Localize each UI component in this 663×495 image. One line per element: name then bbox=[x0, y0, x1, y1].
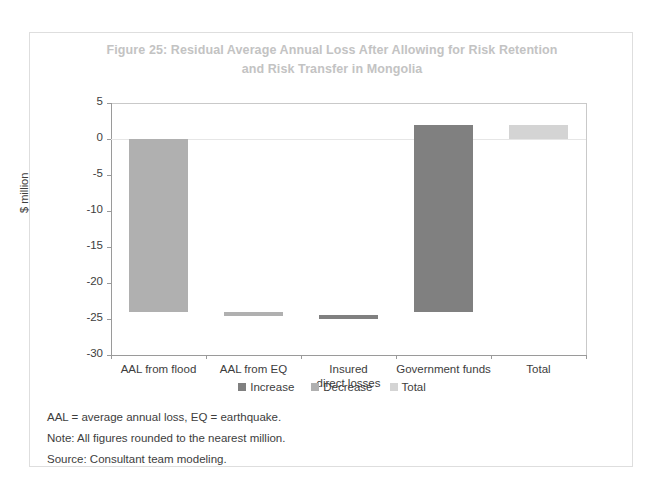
y-axis-title: $ million bbox=[18, 173, 30, 213]
x-tick-label-line: AAL from flood bbox=[111, 363, 206, 377]
y-tick-label: -30 bbox=[86, 347, 103, 359]
legend-item[interactable]: Decrease bbox=[311, 381, 372, 393]
y-tick: -10 bbox=[63, 211, 111, 212]
x-tick-mark bbox=[396, 355, 397, 359]
chart-plot: $ million 50-5-10-15-20-25-30 AAL from f… bbox=[30, 95, 634, 385]
plot-right-border bbox=[586, 103, 587, 356]
chart-bar bbox=[414, 125, 473, 312]
legend-item[interactable]: Increase bbox=[238, 381, 294, 393]
y-axis-ticks: 50-5-10-15-20-25-30 bbox=[63, 103, 111, 355]
figure-frame: Figure 25: Residual Average Annual Loss … bbox=[29, 32, 633, 467]
legend-label: Increase bbox=[250, 381, 294, 393]
note-rounding: Note: All figures rounded to the nearest… bbox=[47, 428, 607, 449]
legend-label: Total bbox=[402, 381, 426, 393]
y-tick: -5 bbox=[63, 175, 111, 176]
x-tick-label: AAL from EQ bbox=[206, 363, 301, 377]
x-tick-label-line: Total bbox=[491, 363, 586, 377]
y-tick: 5 bbox=[63, 103, 111, 104]
chart-legend: IncreaseDecreaseTotal bbox=[30, 381, 634, 393]
note-abbreviations: AAL = average annual loss, EQ = earthqua… bbox=[47, 407, 607, 428]
y-tick-label: -10 bbox=[86, 203, 103, 215]
x-tick-label-line: AAL from EQ bbox=[206, 363, 301, 377]
x-tick-mark bbox=[111, 355, 112, 359]
x-tick-mark bbox=[301, 355, 302, 359]
x-tick-mark bbox=[586, 355, 587, 359]
x-tick-label: Total bbox=[491, 363, 586, 377]
y-tick-label: -25 bbox=[86, 311, 103, 323]
chart-bar bbox=[224, 312, 283, 316]
y-tick: -15 bbox=[63, 247, 111, 248]
legend-swatch-icon bbox=[238, 383, 246, 391]
figure-notes: AAL = average annual loss, EQ = earthqua… bbox=[47, 407, 607, 470]
y-tick-label: 0 bbox=[97, 131, 103, 143]
y-tick-label: -20 bbox=[86, 275, 103, 287]
legend-swatch-icon bbox=[311, 383, 319, 391]
x-tick-mark bbox=[206, 355, 207, 359]
figure-title-line-2: and Risk Transfer in Mongolia bbox=[70, 60, 594, 79]
plot-area bbox=[111, 103, 586, 355]
y-tick: -30 bbox=[63, 355, 111, 356]
legend-item[interactable]: Total bbox=[390, 381, 426, 393]
y-tick: 0 bbox=[63, 139, 111, 140]
chart-bar bbox=[129, 139, 188, 312]
note-source: Source: Consultant team modeling. bbox=[47, 449, 607, 470]
chart-bar bbox=[319, 315, 378, 319]
x-axis-line bbox=[111, 355, 587, 356]
legend-swatch-icon bbox=[390, 383, 398, 391]
y-tick: -20 bbox=[63, 283, 111, 284]
figure-title-line-1: Figure 25: Residual Average Annual Loss … bbox=[70, 41, 594, 60]
x-tick-label: AAL from flood bbox=[111, 363, 206, 377]
y-tick-label: 5 bbox=[97, 95, 103, 107]
x-tick-label-line: Government funds bbox=[396, 363, 491, 377]
y-tick-label: -15 bbox=[86, 239, 103, 251]
x-tick-label: Government funds bbox=[396, 363, 491, 377]
legend-label: Decrease bbox=[323, 381, 372, 393]
y-tick: -25 bbox=[63, 319, 111, 320]
y-tick-label: -5 bbox=[93, 167, 103, 179]
x-tick-label-line: Insured bbox=[301, 363, 396, 377]
x-tick-mark bbox=[491, 355, 492, 359]
chart-bar bbox=[509, 125, 568, 139]
figure-title: Figure 25: Residual Average Annual Loss … bbox=[70, 41, 594, 79]
